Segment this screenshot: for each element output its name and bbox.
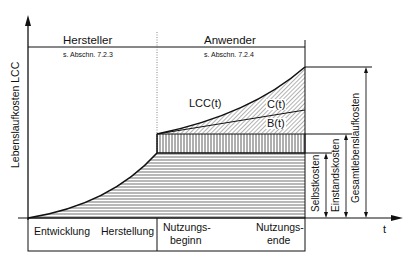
anwender-label: Anwender [204, 35, 256, 47]
x-axis-label: t [383, 224, 386, 235]
anwender-ref: s. Abschn. 7.2.4 [204, 51, 254, 58]
stage-entwicklung: Entwicklung [34, 226, 90, 237]
c-label: C(t) [266, 99, 286, 110]
stage-nutzungsende-2: ende [267, 235, 290, 246]
stage-nutzungsbeginn-2: beginn [170, 235, 202, 246]
stage-nutzungsende-1: Nutzungs- [256, 222, 304, 233]
y-axis-arrow [25, 15, 31, 26]
selbstkosten-label: Selbstkosten [311, 155, 321, 212]
lcc-label: LCC(t) [189, 98, 221, 109]
b-label: B(t) [266, 118, 286, 129]
gesamtkosten-label: Gesamtlebenslaufkosten [351, 93, 361, 203]
y-axis-label: Lebenslaufkosten LCC [10, 62, 21, 168]
hersteller-label: Hersteller [63, 35, 112, 47]
einstandskosten-label: Einstandskosten [331, 139, 341, 212]
einstand-area [157, 134, 305, 153]
x-axis-arrow [391, 215, 403, 221]
hersteller-ref: s. Abschn. 7.2.3 [63, 51, 113, 58]
stage-herstellung: Herstellung [101, 226, 154, 237]
stage-nutzungsbeginn-1: Nutzungs- [163, 222, 211, 233]
